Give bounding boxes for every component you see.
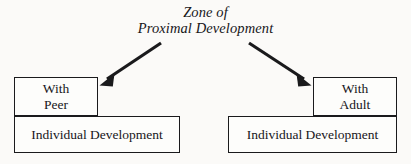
- zone-of-proximal-development-diagram: Zone of Proximal Development With Peer I…: [0, 0, 411, 164]
- box-with-peer-line-1: With: [43, 81, 69, 97]
- arrow-to-with-adult-head: [297, 74, 312, 87]
- box-with-adult: With Adult: [313, 77, 397, 116]
- box-with-peer-line-2: Peer: [43, 97, 69, 113]
- diagram-title-line-1: Zone of: [0, 4, 411, 20]
- box-with-peer: With Peer: [14, 77, 98, 116]
- box-with-adult-line-2: Adult: [340, 97, 371, 113]
- arrow-to-with-adult: [249, 43, 312, 86]
- box-individual-development-right: Individual Development: [228, 116, 397, 153]
- box-individual-development-left: Individual Development: [14, 116, 180, 153]
- arrow-to-with-peer-shaft: [107, 43, 161, 79]
- arrow-to-with-peer-head: [100, 74, 115, 87]
- arrow-to-with-peer: [100, 43, 162, 86]
- box-individual-development-left-label: Individual Development: [27, 127, 167, 143]
- box-individual-development-right-label: Individual Development: [243, 127, 383, 143]
- diagram-title: Zone of Proximal Development: [0, 4, 411, 36]
- box-with-adult-line-1: With: [340, 81, 371, 97]
- diagram-title-line-2: Proximal Development: [0, 20, 411, 36]
- arrow-to-with-adult-shaft: [249, 43, 304, 79]
